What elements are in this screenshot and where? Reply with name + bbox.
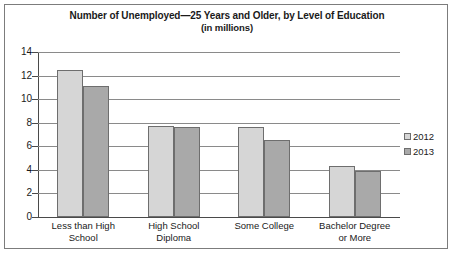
legend-label: 2012 [413,131,434,142]
x-axis-label-1: Less than HighSchool [38,220,129,243]
chart-title: Number of Unemployed—25 Years and Older,… [5,10,449,22]
plot-area [38,52,400,217]
bar-2013-3 [264,140,290,217]
x-axis-label-line: High School [129,220,220,232]
bar-group [129,52,220,217]
y-tick-label-0: 0 [8,211,32,222]
x-axis-label-3: Some College [219,220,310,232]
chart-title-block: Number of Unemployed—25 Years and Older,… [5,10,449,34]
bar-group [219,52,310,217]
bar-2012-2 [148,126,174,217]
legend-label: 2013 [413,146,434,157]
bar-2013-1 [83,86,109,217]
chart-subtitle: (in millions) [5,22,449,34]
y-tick-label-2: 2 [8,187,32,198]
bar-2012-1 [57,70,83,217]
x-axis-label-line: Less than High [38,220,129,232]
bar-2012-4 [329,166,355,217]
y-tick-label-10: 10 [8,93,32,104]
x-axis-label-line: or More [310,232,401,244]
legend-item-2013: 2013 [404,145,448,158]
gridline-0 [38,217,400,218]
y-tick-label-4: 4 [8,164,32,175]
chart-figure: Number of Unemployed—25 Years and Older,… [4,4,448,249]
bar-2012-3 [238,127,264,217]
x-axis-label-line: School [38,232,129,244]
legend-swatch-icon [404,148,411,155]
bar-group [310,52,401,217]
y-tick-label-14: 14 [8,46,32,57]
y-tick-label-12: 12 [8,70,32,81]
bar-2013-2 [174,127,200,217]
legend-item-2012: 2012 [404,130,448,143]
x-axis-label-line: Some College [219,220,310,232]
bar-series-container [38,52,400,217]
x-axis-category-labels: Less than HighSchoolHigh SchoolDiplomaSo… [38,220,400,248]
x-axis-label-line: Diploma [129,232,220,244]
bar-group [38,52,129,217]
legend-swatch-icon [404,133,411,140]
x-axis-label-4: Bachelor Degreeor More [310,220,401,243]
chart-legend: 20122013 [404,130,448,160]
x-axis-label-2: High SchoolDiploma [129,220,220,243]
x-axis-label-line: Bachelor Degree [310,220,401,232]
y-tick-label-6: 6 [8,140,32,151]
y-axis-labels: 14121086420 [5,52,32,218]
y-tick-label-8: 8 [8,117,32,128]
bar-2013-4 [355,171,381,217]
